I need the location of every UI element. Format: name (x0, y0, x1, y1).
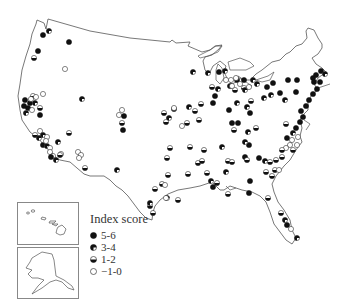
city-point (231, 127, 236, 132)
city-point (37, 105, 42, 110)
city-point (114, 167, 119, 172)
legend-label: 3-4 (101, 241, 116, 253)
city-point (46, 28, 51, 33)
city-point (120, 127, 125, 132)
city-point (284, 135, 289, 140)
city-point (163, 195, 168, 200)
city-point (235, 120, 240, 125)
city-point (246, 190, 251, 195)
city-point (186, 104, 191, 109)
city-point (36, 135, 41, 140)
city-point (310, 91, 315, 96)
city-point (269, 173, 274, 178)
city-point (121, 113, 126, 118)
full-circle-icon (90, 232, 97, 239)
city-point (37, 112, 42, 117)
city-point (322, 71, 327, 76)
legend-item-3-4: 3-4 (90, 241, 148, 253)
city-point (277, 90, 282, 95)
city-point (199, 158, 204, 163)
city-point (317, 79, 322, 84)
alaska-inset (17, 247, 79, 299)
three-quarter-circle-icon (90, 244, 97, 251)
legend-label: 1-2 (101, 253, 116, 265)
city-point (33, 94, 38, 99)
city-point (66, 39, 71, 44)
city-point (229, 120, 234, 125)
city-point (228, 77, 233, 82)
city-point (284, 222, 289, 227)
city-point (35, 48, 40, 53)
city-point (190, 69, 195, 74)
city-point (208, 178, 213, 183)
city-point (21, 103, 26, 108)
city-point (226, 107, 231, 112)
legend: Index score 5-6 3-4 1-2 −1-0 (90, 212, 148, 277)
city-point (165, 172, 170, 177)
city-point (175, 197, 180, 202)
city-point (264, 84, 269, 89)
legend-item-1-2: 1-2 (90, 253, 148, 265)
city-point (119, 120, 124, 125)
city-point (225, 191, 230, 196)
city-point (162, 182, 167, 187)
city-point (185, 171, 190, 176)
legend-item-5-6: 5-6 (90, 229, 148, 241)
city-point (295, 134, 300, 139)
city-point (233, 75, 238, 80)
city-point (57, 152, 62, 157)
city-point (290, 147, 295, 152)
city-point (216, 69, 221, 74)
city-point (242, 139, 247, 144)
city-point (184, 120, 189, 125)
city-point (163, 119, 168, 124)
city-point (265, 195, 270, 200)
city-point (314, 86, 319, 91)
city-point (22, 97, 27, 102)
city-point (263, 169, 268, 174)
city-point (282, 97, 287, 102)
city-point (171, 105, 176, 110)
city-point (152, 186, 157, 191)
city-point (268, 92, 273, 97)
city-point (237, 81, 242, 86)
city-point (55, 139, 60, 144)
city-point (43, 138, 48, 143)
city-point (282, 217, 287, 222)
city-point (273, 157, 278, 162)
city-point (303, 103, 308, 108)
city-point (222, 68, 227, 73)
city-point (293, 125, 298, 130)
city-point (40, 32, 45, 37)
city-point (28, 96, 33, 101)
empty-circle-icon (90, 268, 97, 275)
city-point (192, 108, 197, 113)
city-point (290, 130, 295, 135)
city-point (201, 147, 206, 152)
city-point (298, 108, 303, 113)
city-point (276, 167, 281, 172)
city-point (306, 97, 311, 102)
city-point (62, 66, 67, 71)
city-point (23, 110, 28, 115)
city-point (283, 121, 288, 126)
city-point (167, 145, 172, 150)
city-point (31, 55, 36, 60)
hawaii-islands (27, 210, 67, 235)
city-point (229, 159, 234, 164)
legend-label: −1-0 (101, 265, 122, 277)
city-point (119, 107, 124, 112)
city-point (214, 180, 219, 185)
city-point (53, 157, 58, 162)
city-point (219, 144, 224, 149)
city-point (210, 100, 215, 105)
city-point (270, 80, 275, 85)
city-point (288, 226, 293, 231)
city-point (241, 77, 246, 82)
city-point (29, 107, 34, 112)
city-point (278, 210, 283, 215)
city-point (247, 178, 252, 183)
city-point (179, 123, 184, 128)
city-point (215, 86, 220, 91)
city-point (246, 84, 251, 89)
